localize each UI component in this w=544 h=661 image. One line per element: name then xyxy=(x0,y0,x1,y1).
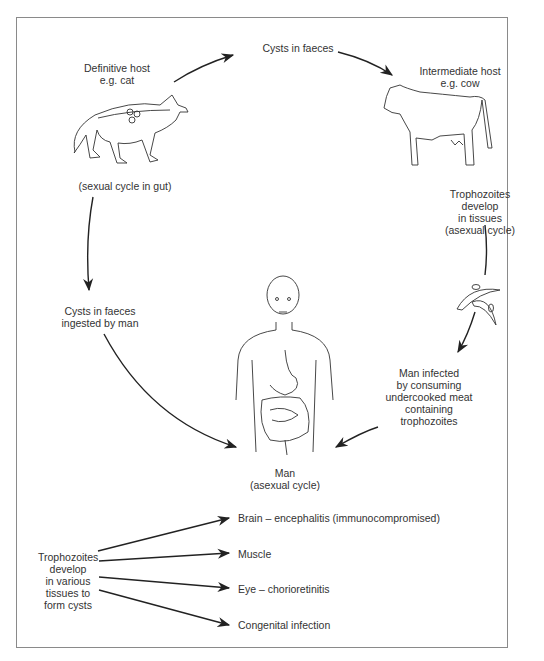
arrow-cysts-to-cow xyxy=(338,52,392,75)
outcome-congenital: Congenital infection xyxy=(238,619,330,631)
label-cysts-in-faeces: Cysts in faeces xyxy=(248,42,348,54)
trophozoites-illustration xyxy=(457,285,500,326)
outcome-brain: Brain – encephalitis (immunocompromised) xyxy=(238,512,440,524)
label-trophozoites-various: Trophozoites develop in various tissues … xyxy=(38,551,98,611)
arrow-man-infected-to-man xyxy=(336,427,378,447)
human-illustration xyxy=(236,276,333,455)
outcome-eye: Eye – chorioretinitis xyxy=(238,583,330,595)
outcome-muscle: Muscle xyxy=(238,548,271,560)
arrow-to-congenital xyxy=(99,590,229,625)
arrow-to-eye xyxy=(99,577,229,588)
arrow-ingested-to-man xyxy=(104,334,236,447)
label-intermediate-host: Intermediate host e.g. cow xyxy=(400,65,520,89)
arrow-cat-to-cysts xyxy=(174,55,233,82)
arrow-cat-to-ingested xyxy=(88,197,93,290)
label-man-infected: Man infected by consuming undercooked me… xyxy=(378,367,480,427)
cat-illustration xyxy=(74,95,188,163)
arrow-to-muscle xyxy=(99,553,229,561)
label-man: Man (asexual cycle) xyxy=(240,467,330,491)
cow-illustration xyxy=(384,85,492,165)
label-trophozoites-tissues: Trophozoites develop in tissues (asexual… xyxy=(430,188,530,236)
arrow-to-brain xyxy=(98,518,229,551)
arrow-trophozoites-to-man-infected xyxy=(458,312,475,352)
label-cysts-ingested: Cysts in faeces ingested by man xyxy=(55,305,145,329)
label-sexual-cycle: (sexual cycle in gut) xyxy=(70,180,180,192)
label-definitive-host: Definitive host e.g. cat xyxy=(62,62,172,86)
